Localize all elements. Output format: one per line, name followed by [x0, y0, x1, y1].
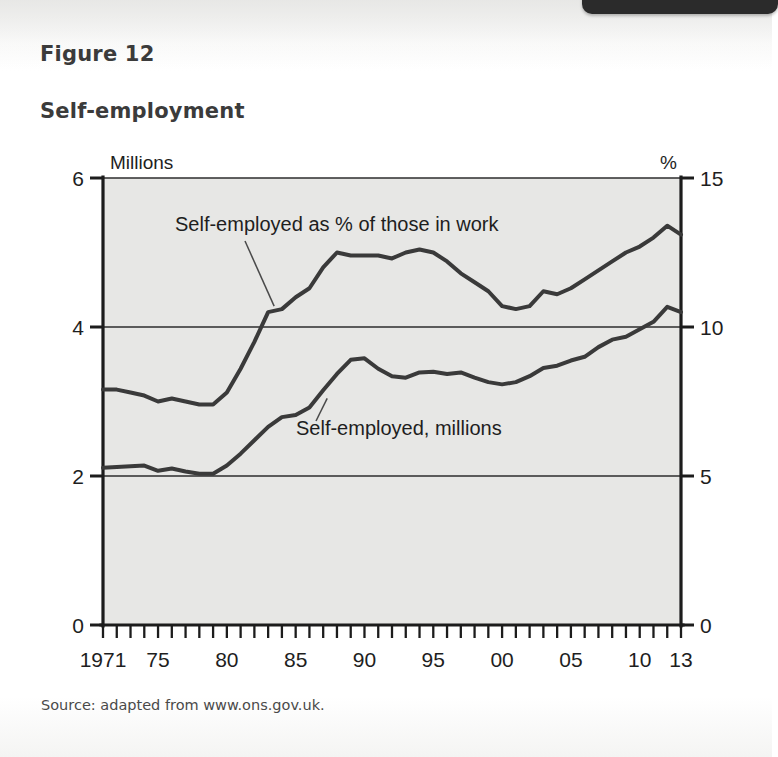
y-tick-label-right: 15 — [700, 167, 723, 190]
y-tick-label-right: 0 — [700, 614, 712, 637]
source-note: Source: adapted from www.ons.gov.uk. — [41, 697, 325, 713]
y-tick-label-right: 10 — [700, 316, 723, 339]
y-tick-label-left: 2 — [72, 465, 84, 488]
self-employment-line-chart: 0246051015Millions%197175808590950005101… — [0, 145, 772, 675]
x-tick-label: 90 — [353, 648, 376, 671]
x-tick-label: 10 — [628, 648, 651, 671]
page-title: Self-employment — [40, 99, 245, 123]
y-axis-unit-left: Millions — [110, 152, 173, 173]
x-tick-label: 05 — [559, 648, 582, 671]
x-tick-label: 00 — [490, 648, 513, 671]
y-axis-unit-right: % — [660, 152, 677, 173]
x-tick-label: 13 — [669, 648, 692, 671]
y-tick-label-left: 6 — [72, 167, 84, 190]
chart-container: 0246051015Millions%197175808590950005101… — [0, 145, 772, 675]
annotation-millions-label: Self-employed, millions — [296, 417, 502, 439]
x-tick-label: 1971 — [80, 648, 127, 671]
annotation-percent-label: Self-employed as % of those in work — [175, 213, 499, 235]
figure-label: Figure 12 — [40, 42, 154, 66]
y-tick-label-right: 5 — [700, 465, 712, 488]
y-tick-label-left: 4 — [72, 316, 84, 339]
page-edge-tab — [582, 0, 778, 14]
x-tick-label: 75 — [146, 648, 169, 671]
x-tick-label: 85 — [284, 648, 307, 671]
x-tick-label: 80 — [215, 648, 238, 671]
y-tick-label-left: 0 — [72, 614, 84, 637]
x-tick-label: 95 — [422, 648, 445, 671]
